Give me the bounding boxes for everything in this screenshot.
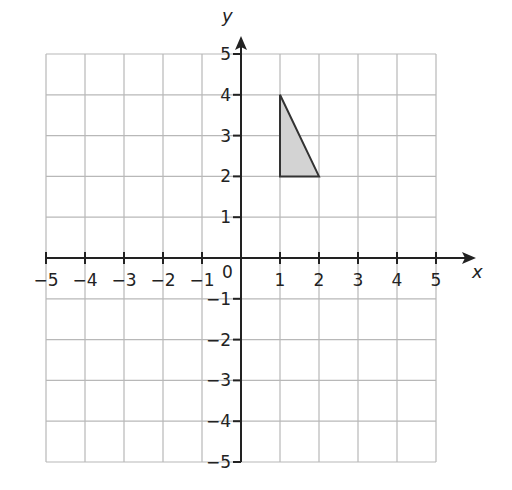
y-axis-label: y — [221, 5, 233, 26]
coordinate-plane: −5−4−3−2−112345−5−4−3−2−112345 x y 0 — [0, 0, 512, 490]
x-tick-label: −2 — [150, 270, 175, 290]
y-tick-label: 1 — [220, 207, 231, 227]
x-tick-label: 1 — [275, 270, 286, 290]
origin-label: 0 — [222, 262, 233, 282]
x-tick-label: −5 — [33, 270, 58, 290]
y-tick-label: 3 — [220, 126, 231, 146]
y-tick-label: −2 — [206, 330, 231, 350]
x-axis-label: x — [471, 261, 483, 282]
x-tick-label: 5 — [431, 270, 442, 290]
x-tick-label: 3 — [353, 270, 364, 290]
y-tick-label: −4 — [206, 411, 231, 431]
y-tick-label: −5 — [206, 452, 231, 472]
x-tick-label: −1 — [189, 270, 214, 290]
x-tick-label: 2 — [314, 270, 325, 290]
y-tick-label: −1 — [206, 289, 231, 309]
y-tick-label: 5 — [220, 44, 231, 64]
axes — [46, 36, 476, 462]
x-tick-label: 4 — [392, 270, 403, 290]
x-tick-label: −4 — [72, 270, 97, 290]
y-tick-label: −3 — [206, 370, 231, 390]
y-tick-label: 4 — [220, 85, 231, 105]
x-tick-label: −3 — [111, 270, 136, 290]
y-tick-label: 2 — [220, 166, 231, 186]
